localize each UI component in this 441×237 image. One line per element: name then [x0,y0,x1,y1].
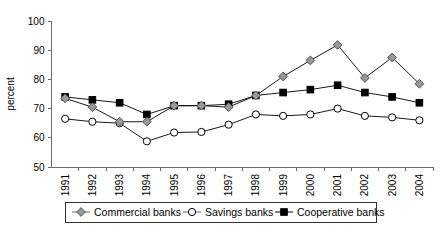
x-tick-label: 1994 [141,174,152,197]
series-savings-banks [62,105,423,145]
x-tick-label: 1997 [223,174,234,197]
x-tick-label: 1992 [87,174,98,197]
x-tick-label: 2002 [359,174,370,197]
data-point [416,117,423,124]
data-point [280,112,287,119]
data-point [306,56,315,65]
series-commercial-banks [61,41,424,127]
data-point [225,121,232,128]
x-tick-label: 1998 [250,174,261,197]
y-tick-label: 90 [33,45,45,56]
x-tick-label: 2001 [332,174,343,197]
x-tick-label: 2003 [387,174,398,197]
data-point [334,105,341,112]
legend-label: Commercial banks [94,206,181,218]
series-line [65,45,419,122]
y-axis: 1009080706050 [28,16,52,173]
data-point [171,129,178,136]
series-cooperative-banks [62,82,423,118]
y-tick-label: 80 [33,74,45,85]
data-point [89,118,96,125]
data-point [252,111,259,118]
y-tick-label: 50 [33,162,45,173]
legend-label: Cooperative banks [297,206,385,218]
data-point [416,99,423,106]
x-axis: 1991199219931994199519961997199819992000… [52,167,434,196]
data-point [198,128,205,135]
chart-container: 1009080706050percent19911992199319941995… [0,0,441,237]
data-point [389,94,396,101]
data-point [88,103,97,112]
x-tick-label: 1991 [60,174,71,197]
x-tick-label: 1995 [169,174,180,197]
data-point [280,89,287,96]
y-axis-title: percent [5,77,16,111]
legend-label: Savings banks [205,206,273,218]
square-icon [281,209,288,216]
data-point [142,117,151,126]
data-point [279,72,288,81]
data-point [334,82,341,89]
data-point [361,112,368,119]
y-tick-label: 60 [33,132,45,143]
data-point [143,138,150,145]
x-tick-label: 2004 [414,174,425,197]
data-point [116,99,123,106]
data-point [307,111,314,118]
x-tick-label: 1999 [278,174,289,197]
data-point [389,114,396,121]
data-point [362,89,369,96]
data-point [307,86,314,93]
legend: Commercial banksSavings banksCooperative… [65,202,385,222]
y-tick-label: 100 [28,16,45,27]
data-point [62,115,69,122]
x-tick-label: 2000 [305,174,316,197]
line-chart: 1009080706050percent19911992199319941995… [0,0,441,237]
y-tick-label: 70 [33,103,45,114]
circle-icon [188,208,195,215]
x-tick-label: 1993 [114,174,125,197]
x-tick-label: 1996 [196,174,207,197]
